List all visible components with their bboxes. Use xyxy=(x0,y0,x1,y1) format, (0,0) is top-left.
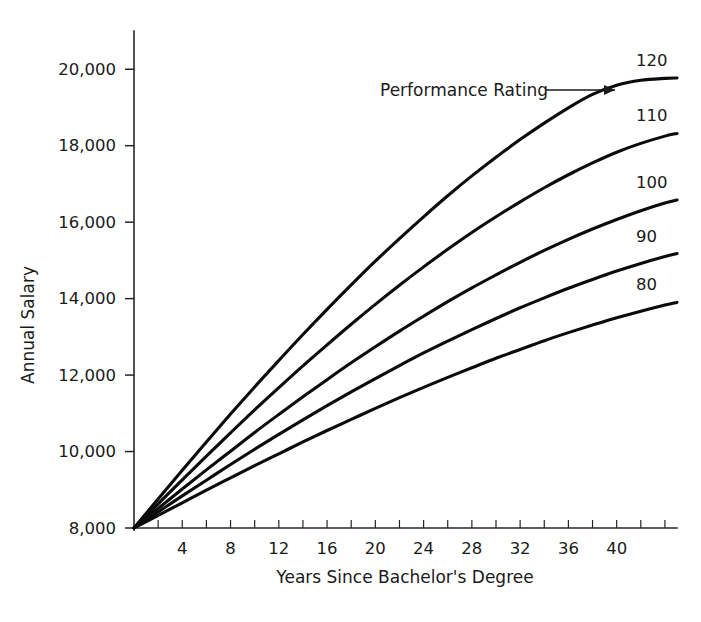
salary-performance-line-chart: 8,00010,00012,00014,00016,00018,00020,00… xyxy=(0,0,701,622)
series-label-110: 110 xyxy=(636,106,668,125)
y-tick-label: 14,000 xyxy=(58,289,116,308)
y-tick-label: 18,000 xyxy=(58,136,116,155)
y-axis-tick-labels: 8,00010,00012,00014,00016,00018,00020,00… xyxy=(58,60,116,538)
y-axis-title: Annual Salary xyxy=(18,266,38,384)
x-tick-label: 8 xyxy=(225,539,236,558)
series-label-120: 120 xyxy=(636,51,668,70)
x-tick-label: 24 xyxy=(413,539,434,558)
x-tick-label: 4 xyxy=(177,539,188,558)
series-label-90: 90 xyxy=(636,227,657,246)
data-curve-group xyxy=(134,78,677,528)
x-tick-label: 12 xyxy=(268,539,289,558)
y-tick-label: 10,000 xyxy=(58,442,116,461)
x-tick-label: 20 xyxy=(365,539,386,558)
x-tick-label: 32 xyxy=(510,539,531,558)
series-label-80: 80 xyxy=(636,275,657,294)
y-tick-label: 20,000 xyxy=(58,60,116,79)
x-tick-label: 36 xyxy=(558,539,579,558)
x-axis-tick-labels: 481216202428323640 xyxy=(177,539,627,558)
y-tick-label: 8,000 xyxy=(69,519,116,538)
y-axis-tick-group xyxy=(125,69,134,528)
series-curve-120 xyxy=(134,78,677,528)
x-tick-label: 40 xyxy=(606,539,627,558)
x-tick-label: 28 xyxy=(461,539,482,558)
chart-container: 8,00010,00012,00014,00016,00018,00020,00… xyxy=(0,0,701,622)
series-label-100: 100 xyxy=(636,173,668,192)
performance-rating-annotation: Performance Rating xyxy=(380,80,548,100)
y-tick-label: 12,000 xyxy=(58,366,116,385)
x-axis-title: Years Since Bachelor's Degree xyxy=(275,567,533,587)
series-curve-80 xyxy=(134,302,677,528)
right-arrow-icon xyxy=(546,85,615,95)
x-tick-label: 16 xyxy=(317,539,338,558)
x-axis-minor-tick-group xyxy=(158,520,665,528)
y-tick-label: 16,000 xyxy=(58,213,116,232)
series-curve-110 xyxy=(134,133,677,528)
